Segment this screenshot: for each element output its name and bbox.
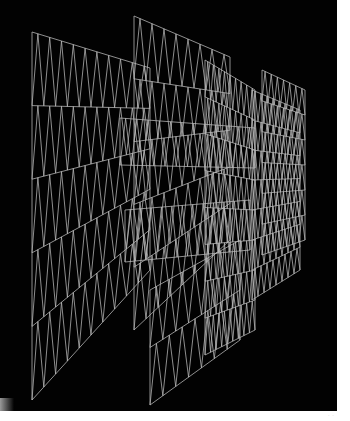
edge-glare bbox=[0, 398, 14, 411]
right-far-panel bbox=[262, 70, 305, 255]
wireframe-image bbox=[0, 0, 337, 411]
wireframe-mesh-graphic bbox=[0, 0, 337, 411]
left-front-panel bbox=[32, 32, 150, 400]
corner-mark: · · bbox=[328, 412, 334, 418]
